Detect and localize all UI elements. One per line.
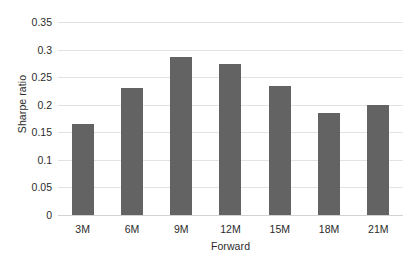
bar-slot	[157, 22, 206, 215]
bar[interactable]	[318, 113, 340, 215]
x-tick-slot: 6M	[107, 219, 156, 237]
y-axis-tick-label: 0.05	[32, 181, 52, 193]
x-tick-slot: 15M	[255, 219, 304, 237]
gridline: 0	[58, 215, 403, 216]
plot-area: 0.350.30.250.20.150.10.050	[58, 22, 403, 215]
bar-slot	[58, 22, 107, 215]
x-axis-tick-label: 18M	[319, 223, 339, 235]
x-axis-tick-label: 12M	[220, 223, 240, 235]
bar-slot	[304, 22, 353, 215]
y-axis-tick-label: 0	[46, 209, 52, 221]
bar-slot	[255, 22, 304, 215]
bar-chart-figure: Sharpe ratio 0.350.30.250.20.150.10.050 …	[0, 0, 413, 264]
bar-slot	[107, 22, 156, 215]
bar[interactable]	[367, 105, 389, 215]
x-tick-slot: 18M	[304, 219, 353, 237]
y-axis-title: Sharpe ratio	[16, 34, 28, 174]
bar-slot	[206, 22, 255, 215]
x-axis-tick-label: 3M	[75, 223, 90, 235]
x-axis-title: Forward	[58, 240, 403, 252]
y-axis-tick-label: 0.1	[37, 154, 52, 166]
x-axis-tick-label: 9M	[174, 223, 189, 235]
y-axis-tick-label: 0.3	[37, 44, 52, 56]
bar[interactable]	[219, 64, 241, 215]
x-tick-slot: 12M	[206, 219, 255, 237]
bar[interactable]	[121, 88, 143, 215]
y-axis-tick-label: 0.15	[32, 126, 52, 138]
bar-slot	[354, 22, 403, 215]
x-axis-tick-label: 6M	[125, 223, 140, 235]
bar[interactable]	[72, 124, 94, 215]
y-axis-tick-label: 0.35	[32, 16, 52, 28]
x-tick-slot: 3M	[58, 219, 107, 237]
y-axis-tick-label: 0.2	[37, 99, 52, 111]
bars-group	[58, 22, 403, 215]
x-axis-tick-labels: 3M6M9M12M15M18M21M	[58, 219, 403, 237]
bar[interactable]	[170, 57, 192, 215]
bar[interactable]	[269, 86, 291, 215]
x-axis-tick-label: 21M	[368, 223, 388, 235]
x-axis-tick-label: 15M	[270, 223, 290, 235]
x-tick-slot: 9M	[157, 219, 206, 237]
x-tick-slot: 21M	[354, 219, 403, 237]
y-axis-tick-label: 0.25	[32, 71, 52, 83]
